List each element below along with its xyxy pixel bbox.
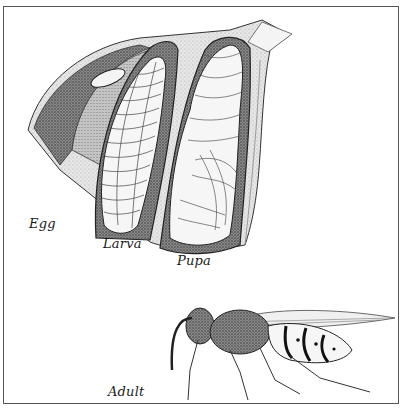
label-adult: Adult [108,384,144,399]
label-egg: Egg [29,216,56,231]
label-pupa: Pupa [177,253,211,268]
adult-wasp [172,308,395,400]
comb-cells [28,20,292,254]
life-cycle-illustration [0,0,403,412]
label-larva: Larva [103,236,142,251]
